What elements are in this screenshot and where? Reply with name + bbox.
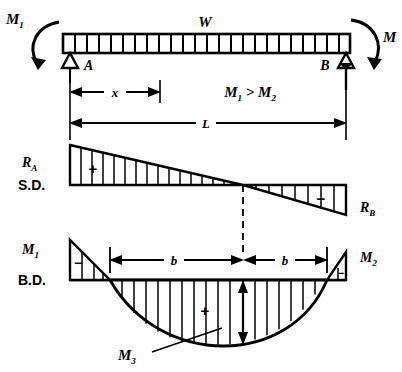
dimension-x: x	[69, 84, 161, 100]
dimension-label-L: L	[201, 116, 210, 131]
support-label-A: A	[83, 58, 93, 73]
dimension-b-left: b	[109, 247, 244, 273]
support-A	[62, 53, 78, 83]
dimension-lines: x L	[69, 80, 347, 140]
distributed-load-W	[63, 34, 350, 53]
moment-arrow-M1-left	[31, 22, 59, 70]
moment-arrow-M-right	[351, 20, 382, 70]
bending-label-M2: M2	[359, 250, 377, 268]
moment-label-M1-left: M1	[5, 11, 24, 30]
support-label-B: B	[319, 58, 329, 73]
bending-label-M1: M1	[21, 242, 39, 260]
reaction-label-RB: RB	[359, 200, 375, 218]
beam-diagram-figure: W A B M1 M M1 > M2	[0, 0, 402, 372]
dimension-label-x: x	[111, 85, 119, 100]
inequality-note: M1 > M2	[223, 84, 276, 103]
bending-minus-sign-right: −	[338, 267, 344, 279]
shear-diagram: + − RA S.D. RB	[18, 145, 375, 252]
reaction-label-RA: RA	[21, 155, 37, 173]
max-moment-label-M3: M3	[117, 347, 136, 366]
bending-minus-sign-left: −	[74, 255, 82, 271]
dimension-b-right: b	[243, 247, 328, 273]
bending-plus-sign: +	[201, 302, 210, 319]
shear-plus-sign: +	[89, 160, 98, 177]
shear-minus-sign: −	[317, 190, 326, 207]
diagram-canvas: W A B M1 M M1 > M2	[0, 0, 402, 372]
shear-diagram-row-label: S.D.	[18, 177, 45, 193]
bending-diagram-row-label: B.D.	[18, 272, 46, 288]
dimension-label-b-right: b	[282, 253, 289, 268]
dimension-label-b-left: b	[171, 253, 178, 268]
moment-label-M-right: M	[382, 29, 397, 45]
bending-diagram: − − +	[18, 240, 377, 366]
load-label-W: W	[198, 14, 213, 30]
dimension-L: L	[69, 114, 347, 131]
beam-assembly: W A B M1 M	[5, 11, 397, 90]
